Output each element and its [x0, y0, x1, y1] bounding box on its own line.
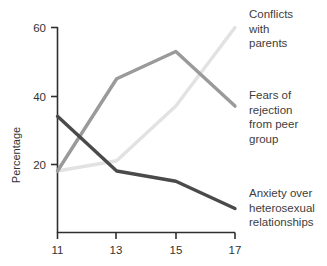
y-tick-label-20: 20	[33, 159, 46, 171]
series-line-fears-of-rejection	[58, 51, 236, 171]
series-label-fears-of-rejection: Fears of rejection from peer group	[249, 88, 325, 146]
y-tick-label-40: 40	[33, 91, 46, 103]
y-tick-label-60: 60	[33, 22, 46, 34]
x-tick-label-11: 11	[52, 244, 64, 256]
x-tick-label-15: 15	[170, 244, 183, 256]
series-label-conflicts-with-parents: Conflicts with parents	[249, 7, 325, 51]
x-tick-label-13: 13	[110, 244, 123, 256]
series-label-anxiety-heterosexual: Anxiety over heterosexual relationships	[249, 186, 327, 230]
line-chart: 60 40 20 11 13 15 17 Percentage Conflict…	[0, 0, 327, 266]
x-tick-label-17: 17	[229, 244, 242, 256]
y-axis-title: Percentage	[10, 127, 22, 183]
series-line-conflicts-with-parents	[58, 28, 236, 172]
